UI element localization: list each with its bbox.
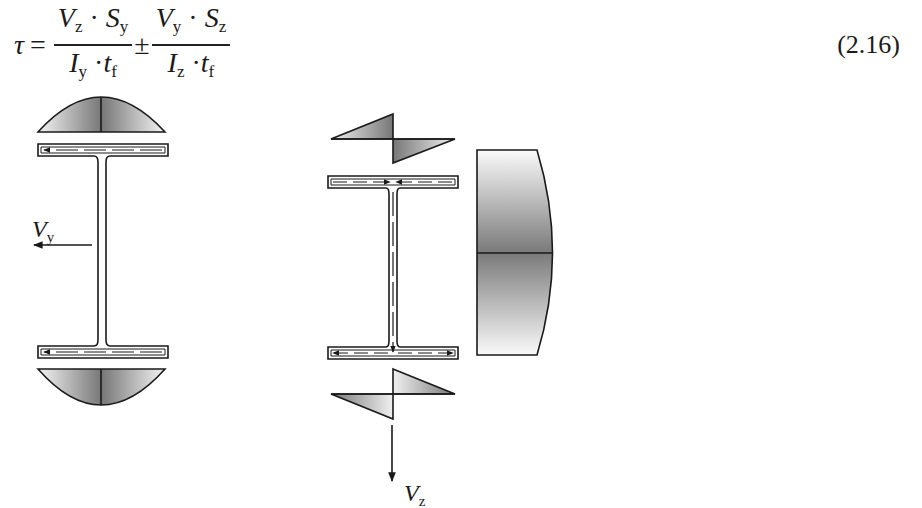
vz-label: Vz: [404, 480, 425, 508]
bottom-zigzag-diagram: [393, 369, 455, 394]
shear-flow-figure: [0, 0, 922, 508]
vy-label: Vy: [32, 216, 54, 246]
left-i-beam: [34, 97, 168, 405]
i-beam-outline: [38, 144, 168, 358]
top-zigzag-diagram: [331, 114, 393, 139]
right-i-beam: [328, 114, 553, 481]
